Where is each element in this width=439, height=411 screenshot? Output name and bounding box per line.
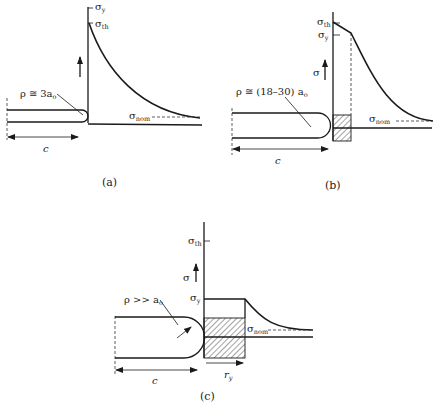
label-radius: ρ >> ao [124,294,163,307]
radius-leader [285,97,311,127]
label-sigma-th: σth [188,235,202,248]
label-sigma-nom: σnom [129,110,150,123]
label-crack-length: c [152,375,158,386]
label-sigma-nom: σnom [247,323,268,336]
radius-leader [57,94,83,115]
panel-a: σy σth σnom ρ ≅ 3ao c (a) [7,1,202,189]
label-sigma-y: σy [95,1,106,14]
radius-arrow-icon [177,327,191,338]
plastic-zone [204,318,245,358]
label-plastic-zone: ry [224,369,233,382]
label-radius: ρ ≅ (18–30) ao [236,86,308,99]
caption-b: (b) [325,179,341,192]
label-sigma-axis: σ [183,272,190,283]
baseline [88,124,202,125]
label-sigma-nom: σnom [369,113,390,126]
stress-curve [89,23,200,118]
label-sigma-y: σy [318,29,329,42]
caption-a: (a) [102,176,117,189]
label-crack-length: c [275,155,281,166]
caption-c: (c) [200,390,215,403]
label-sigma-th: σth [317,16,331,29]
label-sigma-y: σy [190,292,201,305]
crack-outline [232,113,330,138]
stress-curve [333,22,433,121]
panel-b: σth σy σ σnom ρ ≅ (18–30) ao c (b) [232,12,433,192]
label-radius: ρ ≅ 3ao [20,88,57,101]
panel-c: σth σ σy σnom ρ >> ao ry c (c) [115,222,313,403]
crack-outline [7,110,88,122]
figure-canvas: σy σth σnom ρ ≅ 3ao c (a) σth σy σ σnom [0,0,439,411]
label-sigma-th: σth [95,18,109,31]
label-sigma-axis: σ [313,67,320,78]
crack-outline [115,317,204,358]
label-crack-length: c [43,143,49,154]
